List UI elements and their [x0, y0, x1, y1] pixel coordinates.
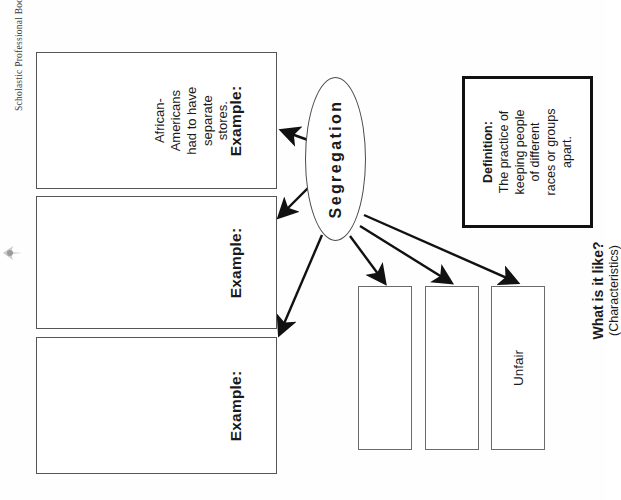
example-box-3-content: Example: [37, 338, 276, 473]
scan-artifact-icon [0, 240, 26, 266]
definition-line1: The practice of [496, 82, 512, 222]
concept-ellipse[interactable]: Segregation [305, 77, 366, 241]
characteristic-text-3: Unfair [511, 350, 526, 386]
definition-line2: keeping people [512, 82, 528, 222]
example-text-1-line2: Americans [169, 61, 185, 179]
characteristics-heading-sub: (Characteristics) [607, 198, 621, 384]
definition-box[interactable]: Definition: The practice of keeping peop… [462, 76, 593, 228]
example-text-1-line5: stores. [216, 61, 232, 179]
example-text-1: African- Americans had to have separate … [153, 61, 232, 179]
concept-label: Segregation [327, 100, 345, 219]
definition-content: Definition: The practice of keeping peop… [480, 82, 575, 222]
example-text-1-line3: had to have [185, 61, 201, 179]
example-label-3: Example: [228, 370, 246, 441]
characteristics-heading-main: What is it like? [590, 198, 606, 384]
characteristic-box-2[interactable] [425, 286, 479, 450]
example-box-2-content: Example: [37, 197, 276, 328]
example-box-1-content: Example: African- Americans had to have … [37, 53, 276, 188]
characteristic-box-3[interactable]: Unfair [491, 286, 545, 450]
definition-line5: apart. [559, 82, 575, 222]
definition-line3: of different [528, 82, 544, 222]
definition-line4: races or groups [543, 82, 559, 222]
definition-title: Definition: [480, 82, 496, 222]
example-text-1-line4: separate [200, 61, 216, 179]
example-label-2: Example: [228, 227, 246, 298]
example-text-1-line1: African- [153, 61, 169, 179]
characteristic-box-1[interactable] [358, 286, 412, 450]
example-box-3[interactable]: Example: [36, 337, 277, 474]
example-box-2[interactable]: Example: [36, 196, 277, 329]
example-box-1[interactable]: Example: African- Americans had to have … [36, 52, 277, 189]
publisher-credit: Scholastic Professional Books [14, 0, 24, 111]
characteristics-heading: What is it like? (Characteristics) [590, 198, 621, 384]
